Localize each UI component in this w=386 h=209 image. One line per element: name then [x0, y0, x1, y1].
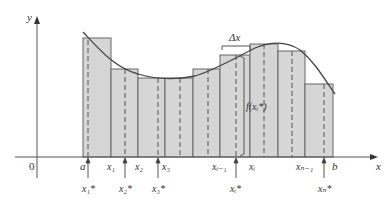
partition-label-xi-1: xᵢ₋₁ — [211, 161, 227, 172]
sample-label-x1: x₁* — [81, 183, 95, 194]
b-label: b — [332, 160, 338, 172]
sample-label-x3: x₃* — [151, 183, 165, 194]
partition-label-x2: x₂ — [134, 161, 143, 172]
partition-label-xi: xᵢ — [248, 161, 255, 172]
bar-5 — [193, 69, 220, 157]
bar-4 — [165, 78, 193, 157]
bar-3 — [138, 78, 165, 157]
riemann-sum-diagram: y x 0 a b x₁ x₂ x₃ xᵢ₋₁ xᵢ xₙ₋₁ x₁* x₂* … — [0, 0, 386, 209]
origin-label: 0 — [29, 160, 35, 172]
sample-label-xi: xᵢ* — [229, 183, 241, 194]
partition-label-x3: x₃ — [161, 161, 170, 172]
bar-9 — [305, 84, 333, 157]
partition-label-x1: x₁ — [106, 161, 115, 172]
y-axis-label: y — [26, 11, 32, 23]
sample-label-xn: xₙ* — [317, 183, 332, 194]
x-axis-label: x — [375, 160, 381, 172]
y-axis-arrow-icon — [34, 16, 40, 24]
delta-x-label: Δx — [228, 31, 240, 43]
sample-arrows — [86, 158, 326, 178]
partition-label-xn-1: xₙ₋₁ — [295, 161, 313, 172]
delta-x-brace — [222, 46, 250, 50]
height-label: f(xᵢ*) — [246, 101, 267, 113]
sample-label-x2: x₂* — [118, 183, 132, 194]
a-label: a — [80, 160, 86, 172]
